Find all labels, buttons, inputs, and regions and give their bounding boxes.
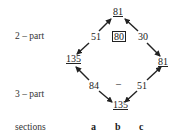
two-part-label: 2 – part xyxy=(15,31,44,41)
node-bottom: 135 xyxy=(113,100,128,110)
edge-label-center-lower: – xyxy=(116,79,121,89)
arrow-30-to-top xyxy=(125,19,138,31)
partition-diagram: 2 – part 3 – part sections 81 135 81 135… xyxy=(0,0,178,139)
node-left: 135 xyxy=(66,54,81,64)
edge-label-left-upper: 51 xyxy=(91,32,101,42)
node-right: 81 xyxy=(158,57,168,67)
arrow-84-to-bottom xyxy=(99,91,112,102)
arrow-51-to-top xyxy=(99,19,111,31)
edge-label-right-upper: 30 xyxy=(138,32,148,42)
section-c: c xyxy=(139,122,143,132)
edge-label-right-lower: 51 xyxy=(137,81,147,91)
section-b: b xyxy=(115,122,121,132)
center-boxed-value: 80 xyxy=(112,31,126,42)
node-top: 81 xyxy=(113,7,123,17)
edge-label-left-lower: 84 xyxy=(89,81,99,91)
sections-label: sections xyxy=(15,122,46,132)
section-a: a xyxy=(91,122,96,132)
arrow-84-to-left xyxy=(76,67,89,80)
arrow-51b-to-right xyxy=(147,67,161,80)
arrow-30-to-right xyxy=(147,43,160,56)
three-part-label: 3 – part xyxy=(15,89,44,99)
arrows-layer xyxy=(0,0,178,139)
